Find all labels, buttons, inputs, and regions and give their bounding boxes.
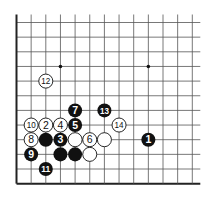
black-stone bbox=[39, 133, 53, 147]
grid-lines bbox=[17, 15, 201, 184]
move-number-label: 7 bbox=[72, 104, 78, 116]
move-number-label: 12 bbox=[41, 76, 50, 86]
star-point-icon bbox=[59, 65, 63, 69]
black-stone-icon bbox=[39, 133, 53, 147]
white-stone-icon bbox=[83, 147, 97, 161]
white-stone-icon bbox=[97, 133, 111, 147]
black-stone-3: 3 bbox=[53, 133, 67, 147]
white-stone-4: 4 bbox=[53, 118, 67, 132]
move-number-label: 6 bbox=[87, 133, 93, 145]
white-stone-8: 8 bbox=[24, 133, 38, 147]
white-stone-14: 14 bbox=[112, 118, 126, 132]
white-stone bbox=[83, 147, 97, 161]
black-stone-icon bbox=[53, 147, 67, 161]
white-stone bbox=[68, 133, 82, 147]
black-stone bbox=[53, 147, 67, 161]
black-stone-13: 13 bbox=[97, 103, 111, 117]
black-stone-icon bbox=[68, 147, 82, 161]
move-number-label: 8 bbox=[28, 133, 34, 145]
move-number-label: 4 bbox=[58, 119, 64, 131]
white-stone-icon bbox=[68, 133, 82, 147]
white-stone-12: 12 bbox=[39, 74, 53, 88]
move-number-label: 9 bbox=[28, 148, 34, 160]
black-stone-5: 5 bbox=[68, 118, 82, 132]
move-number-label: 2 bbox=[43, 119, 49, 131]
white-stone-6: 6 bbox=[83, 133, 97, 147]
move-number-label: 3 bbox=[58, 133, 64, 145]
black-stone-7: 7 bbox=[68, 103, 82, 117]
white-stone-10: 10 bbox=[24, 118, 38, 132]
move-number-label: 5 bbox=[72, 119, 78, 131]
move-number-label: 14 bbox=[115, 120, 124, 130]
move-number-label: 13 bbox=[100, 106, 109, 116]
black-stone-1: 1 bbox=[141, 133, 155, 147]
move-number-label: 1 bbox=[145, 133, 151, 145]
black-stone-9: 9 bbox=[24, 147, 38, 161]
black-stone-11: 11 bbox=[39, 162, 53, 176]
white-stone bbox=[97, 133, 111, 147]
move-number-label: 10 bbox=[27, 120, 36, 130]
go-board: 1234567891011121314 bbox=[0, 0, 213, 202]
black-stone bbox=[68, 147, 82, 161]
star-point-icon bbox=[147, 65, 151, 69]
white-stone-2: 2 bbox=[39, 118, 53, 132]
move-number-label: 11 bbox=[41, 164, 50, 174]
